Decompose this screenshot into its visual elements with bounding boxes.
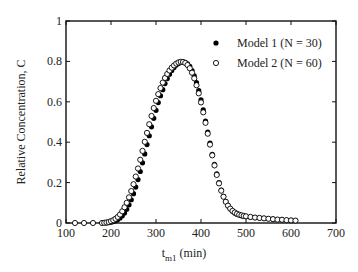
legend-label-model-2: Model 2 (N = 60) <box>237 56 322 70</box>
data-point-open-circle-icon <box>210 153 215 158</box>
data-point-open-circle-icon <box>212 163 217 168</box>
data-point-open-circle-icon <box>129 188 134 193</box>
breakthrough-curve-chart: 100200300400500600700 00.20.40.60.81 Mod… <box>0 0 358 272</box>
x-tick-label: 500 <box>237 226 255 240</box>
legend: Model 1 (N = 30) Model 2 (N = 60) <box>213 36 321 70</box>
y-tick-label: 0.8 <box>47 54 62 68</box>
data-point-open-circle-icon <box>140 148 145 153</box>
data-point-open-circle-icon <box>142 139 147 144</box>
data-point-open-circle-icon <box>198 100 203 105</box>
x-axis-label-unit: (min) <box>180 246 207 260</box>
x-tick-label: 700 <box>327 226 345 240</box>
data-point-open-circle-icon <box>196 91 201 96</box>
data-point-open-circle-icon <box>203 120 208 125</box>
data-point-open-circle-icon <box>151 105 156 110</box>
x-axis-label-subscript: m1 <box>165 253 177 263</box>
data-point-open-circle-icon <box>201 110 206 115</box>
legend-marker-filled-circle-icon <box>213 40 218 45</box>
plot-frame <box>66 21 336 223</box>
data-point-open-circle-icon <box>219 188 224 193</box>
data-point-open-circle-icon <box>90 220 95 225</box>
x-tick-label: 600 <box>282 226 300 240</box>
svg-text:tm1(min): tm1(min) <box>162 246 207 263</box>
x-tick-label: 400 <box>192 226 210 240</box>
series-model-1-markers <box>104 59 298 225</box>
data-point-open-circle-icon <box>144 130 149 135</box>
data-point-open-circle-icon <box>221 194 226 199</box>
data-point-open-circle-icon <box>189 70 194 75</box>
data-point-open-circle-icon <box>214 172 219 177</box>
data-point-open-circle-icon <box>133 174 138 179</box>
data-point-open-circle-icon <box>153 98 158 103</box>
data-point-open-circle-icon <box>192 76 197 81</box>
data-point-open-circle-icon <box>124 200 129 205</box>
legend-marker-open-circle-icon <box>213 60 218 65</box>
data-point-open-circle-icon <box>72 220 77 225</box>
y-axis-label: Relative Concentration, C <box>14 60 28 185</box>
y-tick-label: 0.6 <box>47 95 62 109</box>
data-point-open-circle-icon <box>156 92 161 97</box>
data-point-open-circle-icon <box>135 166 140 171</box>
data-point-open-circle-icon <box>149 113 154 118</box>
data-point-open-circle-icon <box>207 142 212 147</box>
x-tick-label: 200 <box>102 226 120 240</box>
x-tick-label: 300 <box>147 226 165 240</box>
y-tick-label: 0.2 <box>47 176 62 190</box>
legend-label-model-1: Model 1 (N = 30) <box>237 36 322 50</box>
x-axis-label: tm1(min) <box>162 246 207 263</box>
y-tick-label: 0 <box>56 216 62 230</box>
y-tick-label: 1 <box>56 14 62 28</box>
data-point-open-circle-icon <box>205 131 210 136</box>
data-point-open-circle-icon <box>138 157 143 162</box>
y-tick-label: 0.4 <box>47 135 62 149</box>
data-point-open-circle-icon <box>131 182 136 187</box>
data-point-open-circle-icon <box>194 83 199 88</box>
data-point-open-circle-icon <box>158 85 163 90</box>
data-point-open-circle-icon <box>216 181 221 186</box>
x-axis-ticks: 100200300400500600700 <box>57 21 345 240</box>
data-point-open-circle-icon <box>81 220 86 225</box>
data-point-open-circle-icon <box>293 218 298 223</box>
data-point-open-circle-icon <box>126 195 131 200</box>
series-model-2-markers <box>72 59 298 225</box>
data-point-open-circle-icon <box>147 122 152 127</box>
